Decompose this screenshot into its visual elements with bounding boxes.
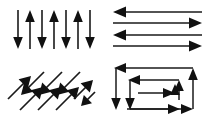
horizontal-arrows-svg xyxy=(105,0,210,59)
panel-diagonal-arrows xyxy=(0,59,105,118)
arrow-down-5 xyxy=(61,10,71,49)
arrow-down-3 xyxy=(37,10,47,49)
circuit-arrows-svg xyxy=(105,59,210,118)
figure-root xyxy=(0,0,210,118)
arrow-down-1 xyxy=(13,10,23,49)
arrow-right-2 xyxy=(113,18,202,29)
arrow-up-2 xyxy=(25,10,35,49)
arrow-left-3 xyxy=(113,30,202,41)
arrow-right-4 xyxy=(113,41,202,52)
arrow-downleft-9 xyxy=(81,92,95,106)
vertical-arrows-svg xyxy=(0,0,105,59)
arrow-up-6 xyxy=(73,10,83,49)
arrow-down-7 xyxy=(85,10,95,49)
diagonal-arrows-svg xyxy=(0,59,105,118)
arrow-left-1 xyxy=(113,7,202,18)
arrow-up-4 xyxy=(49,10,59,49)
circuit-loop-outer xyxy=(111,63,198,114)
circuit-loop-inner xyxy=(138,84,180,98)
panel-horizontal-arrows xyxy=(105,0,210,59)
panel-vertical-arrows xyxy=(0,0,105,59)
panel-circuit-arrows xyxy=(105,59,210,118)
